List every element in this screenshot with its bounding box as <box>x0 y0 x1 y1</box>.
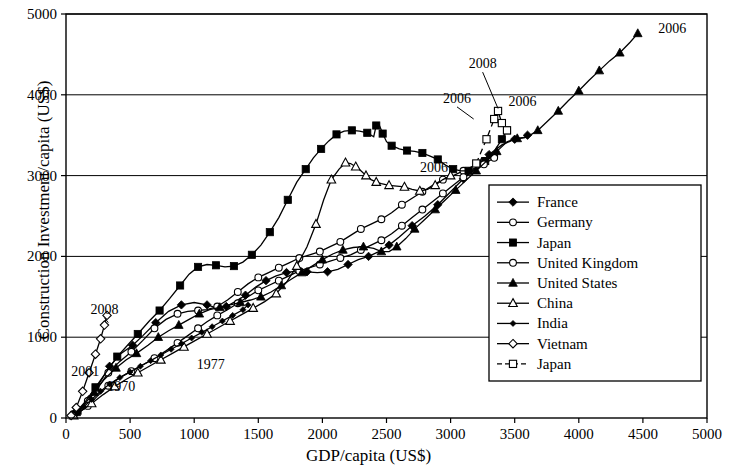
plot-area: 200820011970197720062006200820062006 050… <box>0 0 737 474</box>
legend-item-6[interactable]: India <box>537 315 568 331</box>
data-point-marker <box>357 226 364 233</box>
data-point-marker <box>189 335 195 341</box>
data-point-marker <box>219 318 225 324</box>
data-point-marker <box>344 260 352 268</box>
x-tick-label: 1000 <box>179 426 209 442</box>
data-point-marker <box>372 177 381 185</box>
data-point-marker <box>302 166 309 173</box>
y-tick-label: 2000 <box>27 248 57 264</box>
data-point-marker <box>460 174 467 181</box>
data-point-marker <box>292 261 301 269</box>
data-point-marker <box>284 196 291 203</box>
legend-item-1[interactable]: Germany <box>537 214 593 230</box>
annotation-label: 2001 <box>71 364 99 379</box>
chart-container: Construction Investment/capita (US$) GDP… <box>0 0 737 474</box>
x-tick-labels: 0500100015002000250030003500400045005000 <box>62 418 722 442</box>
legend-item-5[interactable]: China <box>537 295 573 311</box>
data-point-marker <box>510 219 517 226</box>
data-point-marker <box>177 301 185 309</box>
data-point-marker <box>203 301 211 309</box>
data-point-marker <box>114 353 121 360</box>
annotation-label: 2006 <box>420 160 448 175</box>
data-point-marker <box>473 160 480 167</box>
data-point-marker <box>312 219 321 227</box>
data-point-marker <box>248 251 255 258</box>
legend[interactable]: FranceGermanyJapanUnited KingdomUnited S… <box>489 185 701 381</box>
data-point-marker <box>403 147 410 154</box>
data-point-marker <box>316 248 323 255</box>
legend-item-4[interactable]: United States <box>537 275 618 291</box>
data-point-marker <box>388 142 395 149</box>
annotation-label: 2006 <box>658 21 686 36</box>
data-point-marker <box>348 127 355 134</box>
data-point-marker <box>96 335 104 343</box>
y-tick-label: 0 <box>50 410 58 426</box>
y-tick-label: 5000 <box>27 6 57 22</box>
data-point-marker <box>483 136 490 143</box>
x-tick-label: 4500 <box>628 426 658 442</box>
annotation-label: 2006 <box>443 91 471 106</box>
y-tick-label: 3000 <box>27 168 57 184</box>
data-point-marker <box>378 237 385 244</box>
data-point-marker <box>378 216 385 223</box>
data-point-marker <box>194 263 201 270</box>
y-tick-label: 1000 <box>27 329 57 345</box>
data-point-marker <box>498 136 505 143</box>
legend-item-3[interactable]: United Kingdom <box>537 255 639 271</box>
x-tick-label: 3000 <box>436 426 466 442</box>
data-point-marker <box>151 325 158 332</box>
data-point-marker <box>230 262 237 269</box>
data-point-marker <box>175 320 184 328</box>
annotation-label: 1970 <box>107 379 135 394</box>
data-point-marker <box>275 264 282 271</box>
y-tick-labels: 010002000300040005000 <box>27 6 66 426</box>
legend-item-0[interactable]: France <box>537 194 578 210</box>
data-point-marker <box>323 268 331 276</box>
y-tick-label: 4000 <box>27 87 57 103</box>
data-point-marker <box>491 115 498 122</box>
annotation-label: 2008 <box>90 302 118 317</box>
data-point-marker <box>337 238 344 245</box>
data-point-marker <box>498 119 505 126</box>
data-point-marker <box>154 333 163 341</box>
data-point-marker <box>134 330 141 337</box>
x-tick-label: 3500 <box>500 426 530 442</box>
annotation-label: 1977 <box>197 357 225 372</box>
data-point-marker <box>510 259 517 266</box>
x-tick-label: 2000 <box>307 426 337 442</box>
legend-item-2[interactable]: Japan <box>537 235 572 251</box>
data-point-marker <box>398 201 405 208</box>
data-point-marker <box>509 360 516 367</box>
data-point-marker <box>364 129 371 136</box>
data-point-marker <box>398 222 405 229</box>
annotation-label: 2008 <box>469 56 497 71</box>
data-point-marker <box>78 387 86 395</box>
data-point-marker <box>509 239 516 246</box>
data-point-marker <box>168 346 174 352</box>
data-point-marker <box>156 307 163 314</box>
legend-item-8[interactable]: Japan <box>537 356 572 372</box>
legend-item-7[interactable]: Vietnam <box>537 336 588 352</box>
data-point-marker <box>174 310 181 317</box>
data-point-marker <box>214 312 221 319</box>
data-point-marker <box>333 131 340 138</box>
data-point-marker <box>212 262 219 269</box>
data-point-marker <box>419 149 426 156</box>
data-point-marker <box>262 276 270 284</box>
data-point-marker <box>440 190 447 197</box>
x-tick-label: 4000 <box>564 426 594 442</box>
x-tick-label: 5000 <box>692 426 722 442</box>
data-point-marker <box>176 282 183 289</box>
x-tick-label: 0 <box>62 426 70 442</box>
x-tick-label: 1500 <box>243 426 273 442</box>
data-point-marker <box>318 145 325 152</box>
data-point-marker <box>266 229 273 236</box>
x-tick-label: 2500 <box>372 426 402 442</box>
annotation-label: 2006 <box>508 94 536 109</box>
data-point-marker <box>234 289 241 296</box>
data-point-marker <box>379 130 386 137</box>
data-point-marker <box>337 255 344 262</box>
data-point-marker <box>341 158 350 166</box>
data-point-marker <box>209 324 215 330</box>
data-point-marker <box>373 122 380 129</box>
